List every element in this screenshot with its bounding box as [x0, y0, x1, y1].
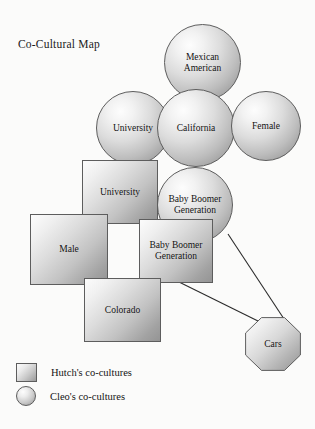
legend-item-label: Cleo's co-cultures [50, 391, 125, 402]
legend-item-cleo: Cleo's co-cultures [16, 384, 246, 408]
legend-item-hutch: Hutch's co-cultures [16, 360, 246, 384]
node-label: Male [57, 244, 81, 255]
node-cars[interactable]: Cars [245, 317, 301, 371]
legend-item-label: Hutch's co-cultures [51, 367, 132, 378]
node-label: California [175, 123, 218, 134]
legend: Hutch's co-cultures Cleo's co-cultures [16, 360, 246, 408]
figure-title: Co-Cultural Map [18, 38, 100, 50]
node-label: Female [250, 121, 282, 132]
node-baby-boomer-rect[interactable]: Baby Boomer Generation [139, 219, 213, 283]
node-label: University [98, 187, 142, 198]
node-colorado[interactable]: Colorado [84, 278, 161, 342]
square-swatch-icon [16, 363, 37, 382]
node-male[interactable]: Male [30, 214, 108, 285]
node-california[interactable]: California [157, 89, 235, 167]
circle-swatch-icon [16, 386, 36, 406]
node-label: Mexican American [165, 52, 240, 73]
node-female[interactable]: Female [231, 91, 301, 161]
connector-baby-boomer-circle-to-cars [228, 234, 286, 322]
node-label: Baby Boomer Generation [143, 240, 209, 261]
node-label: University [111, 123, 155, 134]
node-label: Baby Boomer Generation [164, 194, 226, 215]
node-label: Cars [262, 339, 283, 350]
node-label: Colorado [103, 305, 142, 316]
co-cultural-map-figure: Co-Cultural Map Mexican American Univers… [0, 0, 315, 429]
